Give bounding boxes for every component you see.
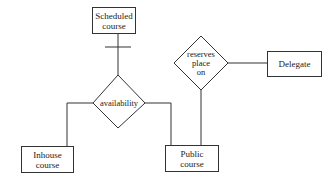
relationship-availability-label: availability (95, 97, 143, 109)
relationship-reserves-label: reserves place on (180, 48, 222, 78)
entity-label-line2: course (180, 159, 204, 169)
entity-label-line1: Scheduled (95, 11, 133, 21)
er-diagram: Scheduled course Delegate Inhouse course… (0, 0, 336, 182)
entity-label-line2: course (95, 21, 133, 31)
line-availability-inhouse (67, 103, 93, 146)
entity-delegate: Delegate (267, 51, 322, 77)
relationship-label-text: availability (100, 99, 138, 108)
entity-label-line1: Public (180, 149, 204, 159)
entity-label: Delegate (279, 59, 311, 69)
entity-inhouse-course: Inhouse course (21, 146, 74, 173)
entity-label-line2: course (33, 160, 62, 170)
entity-label-line1: Inhouse (33, 150, 62, 160)
entity-public-course: Public course (165, 145, 219, 172)
entity-scheduled-course: Scheduled course (92, 7, 136, 34)
line-availability-public (145, 103, 171, 145)
relationship-label-line3: on (187, 68, 215, 77)
